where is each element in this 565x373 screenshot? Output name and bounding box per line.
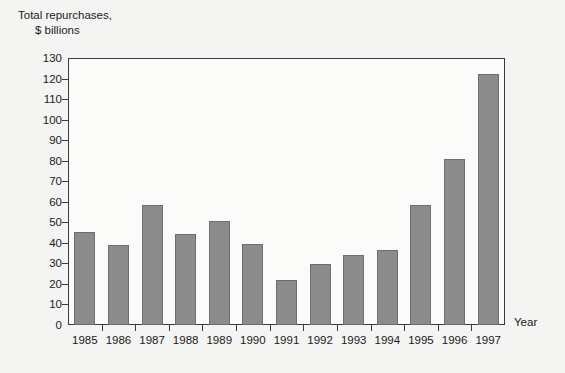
bar	[478, 74, 499, 325]
bar	[209, 221, 230, 325]
x-tick-label: 1995	[408, 334, 434, 346]
x-tick-mark	[404, 325, 405, 331]
x-tick-mark	[135, 325, 136, 331]
y-tick-label: 120	[18, 73, 62, 85]
bar	[310, 264, 331, 325]
x-tick-label: 1989	[206, 334, 232, 346]
x-tick-label: 1992	[307, 334, 333, 346]
y-tick-mark	[62, 284, 68, 285]
y-axis-title-line-2: $ billions	[18, 23, 112, 38]
y-tick-mark	[62, 79, 68, 80]
y-tick-label: 60	[18, 196, 62, 208]
y-tick-label: 100	[18, 114, 62, 126]
x-tick-label: 1994	[375, 334, 401, 346]
y-tick-label: 90	[18, 134, 62, 146]
bar	[108, 245, 129, 325]
x-tick-mark	[303, 325, 304, 331]
y-tick-mark	[62, 161, 68, 162]
bar	[276, 280, 297, 325]
x-tick-label: 1996	[442, 334, 468, 346]
bar	[343, 255, 364, 325]
y-tick-label: 50	[18, 216, 62, 228]
y-tick-mark	[62, 120, 68, 121]
x-tick-label: 1993	[341, 334, 367, 346]
x-tick-label: 1985	[72, 334, 98, 346]
x-tick-mark	[236, 325, 237, 331]
bar	[444, 159, 465, 325]
y-tick-label: 80	[18, 155, 62, 167]
bar	[242, 244, 263, 325]
x-tick-label: 1987	[139, 334, 165, 346]
x-tick-mark	[102, 325, 103, 331]
y-tick-label: 20	[18, 278, 62, 290]
x-tick-mark	[371, 325, 372, 331]
y-tick-label: 30	[18, 257, 62, 269]
y-tick-label: 10	[18, 298, 62, 310]
x-tick-mark	[438, 325, 439, 331]
chart-figure: Total repurchases, $ billions 0102030405…	[0, 0, 565, 373]
bar	[175, 234, 196, 325]
bar	[410, 205, 431, 325]
x-tick-label: 1988	[173, 334, 199, 346]
x-tick-label: 1986	[106, 334, 132, 346]
x-tick-label: 1990	[240, 334, 266, 346]
bar	[74, 232, 95, 325]
x-tick-mark	[202, 325, 203, 331]
y-axis-title: Total repurchases, $ billions	[18, 8, 112, 38]
x-tick-label: 1991	[274, 334, 300, 346]
x-tick-label: 1997	[475, 334, 501, 346]
y-tick-label: 70	[18, 175, 62, 187]
y-tick-mark	[62, 304, 68, 305]
y-tick-label: 130	[18, 52, 62, 64]
y-axis-title-line-1: Total repurchases,	[18, 8, 112, 23]
y-tick-mark	[62, 202, 68, 203]
y-tick-mark	[62, 181, 68, 182]
y-tick-mark	[62, 222, 68, 223]
y-tick-mark	[62, 263, 68, 264]
y-tick-label: 0	[18, 319, 62, 331]
x-tick-mark	[471, 325, 472, 331]
x-axis-label: Year	[514, 316, 537, 328]
x-tick-mark	[270, 325, 271, 331]
y-tick-mark	[62, 140, 68, 141]
bar	[142, 205, 163, 325]
x-tick-mark	[337, 325, 338, 331]
y-tick-mark	[62, 99, 68, 100]
y-tick-label: 40	[18, 237, 62, 249]
bar	[377, 250, 398, 325]
y-tick-label: 110	[18, 93, 62, 105]
y-tick-mark	[62, 243, 68, 244]
x-tick-mark	[169, 325, 170, 331]
